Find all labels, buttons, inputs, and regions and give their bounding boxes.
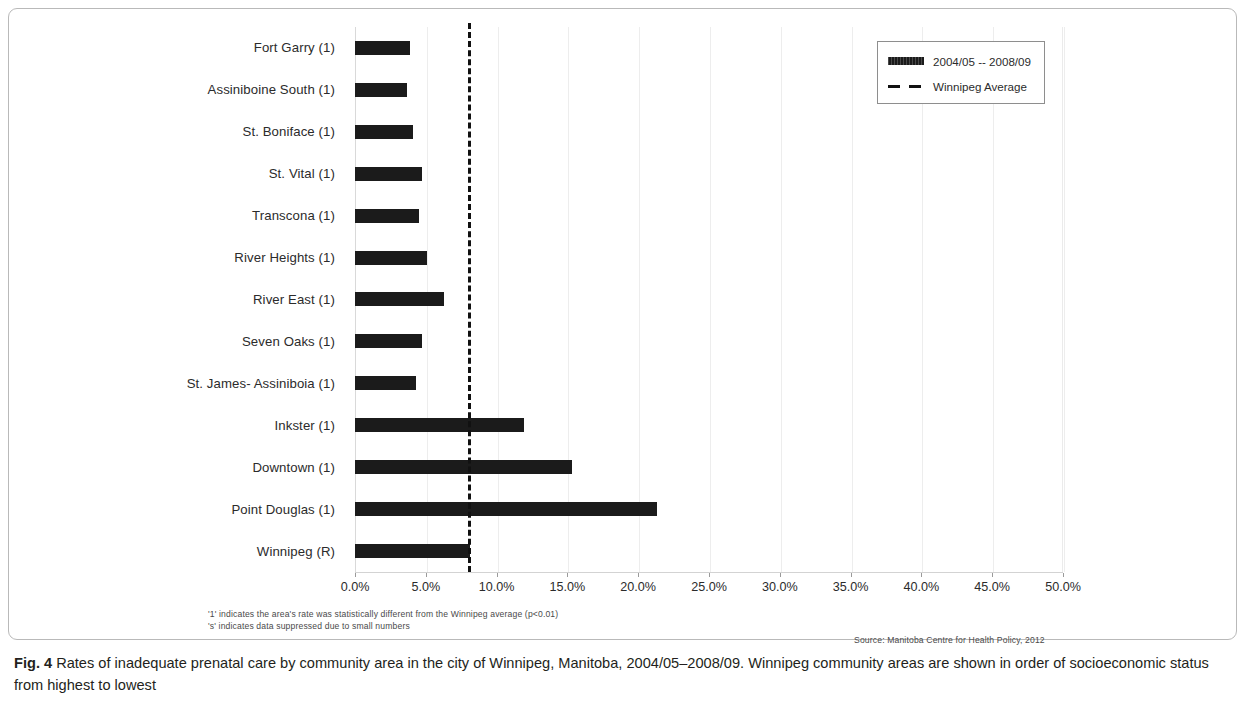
x-axis: 0.0%5.0%10.0%15.0%20.0%25.0%30.0%35.0%40… bbox=[355, 572, 1063, 575]
footnote-statistical-difference: '1' indicates the area's rate was statis… bbox=[208, 609, 558, 621]
x-tick-mark bbox=[355, 573, 356, 577]
bar-row bbox=[355, 279, 1063, 321]
x-tick-label: 15.0% bbox=[550, 580, 586, 594]
x-tick-mark bbox=[851, 573, 852, 577]
x-tick-mark bbox=[638, 573, 639, 577]
category-label: St. Boniface (1) bbox=[243, 111, 336, 153]
x-tick-mark bbox=[921, 573, 922, 577]
figure-frame: Fort Garry (1)Assiniboine South (1)St. B… bbox=[8, 8, 1237, 640]
x-tick-label: 0.0% bbox=[341, 580, 370, 594]
footnote-suppressed-data: 's' indicates data suppressed due to sma… bbox=[208, 621, 558, 633]
legend: 2004/05 -- 2008/09 Winnipeg Average bbox=[877, 41, 1045, 104]
bar-series-group bbox=[355, 27, 1063, 572]
legend-item-average: Winnipeg Average bbox=[888, 78, 1027, 94]
x-tick-mark bbox=[780, 573, 781, 577]
bar-row bbox=[355, 446, 1063, 488]
x-tick-mark bbox=[567, 573, 568, 577]
legend-average-label: Winnipeg Average bbox=[933, 80, 1027, 93]
bar bbox=[355, 334, 422, 348]
bar-row bbox=[355, 237, 1063, 279]
bar bbox=[355, 251, 427, 265]
category-axis-labels: Fort Garry (1)Assiniboine South (1)St. B… bbox=[9, 27, 345, 572]
category-label: Inkster (1) bbox=[275, 404, 335, 446]
category-label: St. James- Assiniboia (1) bbox=[187, 362, 335, 404]
bar-row bbox=[355, 530, 1063, 572]
bar-row bbox=[355, 404, 1063, 446]
x-tick-mark bbox=[992, 573, 993, 577]
bar-row bbox=[355, 362, 1063, 404]
bar bbox=[355, 292, 444, 306]
category-label: Winnipeg (R) bbox=[257, 530, 335, 572]
winnipeg-average-reference-line bbox=[468, 23, 471, 572]
bar bbox=[355, 83, 407, 97]
bar bbox=[355, 460, 572, 474]
x-gridline bbox=[1064, 27, 1065, 572]
category-label: River Heights (1) bbox=[234, 237, 335, 279]
bar-row bbox=[355, 488, 1063, 530]
x-tick-mark bbox=[426, 573, 427, 577]
x-tick-label: 20.0% bbox=[620, 580, 656, 594]
bar-row bbox=[355, 320, 1063, 362]
bar bbox=[355, 209, 419, 223]
x-tick-label: 35.0% bbox=[833, 580, 869, 594]
x-tick-label: 40.0% bbox=[904, 580, 940, 594]
category-label: Assiniboine South (1) bbox=[208, 69, 335, 111]
figure-page: Fort Garry (1)Assiniboine South (1)St. B… bbox=[0, 0, 1247, 710]
x-tick-mark bbox=[709, 573, 710, 577]
category-label: Transcona (1) bbox=[252, 195, 335, 237]
x-tick-label: 5.0% bbox=[411, 580, 440, 594]
bar bbox=[355, 418, 524, 432]
source-note: Source: Manitoba Centre for Health Polic… bbox=[854, 635, 1045, 645]
category-label: Point Douglas (1) bbox=[231, 488, 335, 530]
bar-row bbox=[355, 195, 1063, 237]
x-tick-mark bbox=[497, 573, 498, 577]
category-label: St. Vital (1) bbox=[269, 153, 335, 195]
bar bbox=[355, 125, 413, 139]
legend-dashed-line-icon bbox=[888, 82, 924, 90]
legend-item-series: 2004/05 -- 2008/09 bbox=[888, 53, 1031, 69]
x-tick-label: 30.0% bbox=[762, 580, 798, 594]
x-tick-label: 45.0% bbox=[974, 580, 1010, 594]
legend-series-label: 2004/05 -- 2008/09 bbox=[933, 55, 1031, 68]
bar bbox=[355, 502, 657, 516]
legend-bar-swatch-icon bbox=[888, 57, 924, 65]
bar-row bbox=[355, 153, 1063, 195]
bar bbox=[355, 167, 422, 181]
footnotes: '1' indicates the area's rate was statis… bbox=[208, 609, 558, 632]
x-tick-label: 50.0% bbox=[1045, 580, 1081, 594]
bar-row bbox=[355, 111, 1063, 153]
x-tick-label: 25.0% bbox=[691, 580, 727, 594]
x-tick-label: 10.0% bbox=[479, 580, 515, 594]
figure-number: Fig. 4 bbox=[14, 655, 52, 671]
figure-caption: Fig. 4 Rates of inadequate prenatal care… bbox=[14, 652, 1219, 696]
category-label: Seven Oaks (1) bbox=[242, 320, 335, 362]
figure-caption-text: Rates of inadequate prenatal care by com… bbox=[14, 655, 1209, 693]
bar bbox=[355, 376, 416, 390]
category-label: Fort Garry (1) bbox=[254, 27, 335, 69]
x-tick-mark bbox=[1063, 573, 1064, 577]
category-label: River East (1) bbox=[253, 279, 335, 321]
bar bbox=[355, 544, 470, 558]
bar bbox=[355, 41, 410, 55]
category-label: Downtown (1) bbox=[252, 446, 335, 488]
